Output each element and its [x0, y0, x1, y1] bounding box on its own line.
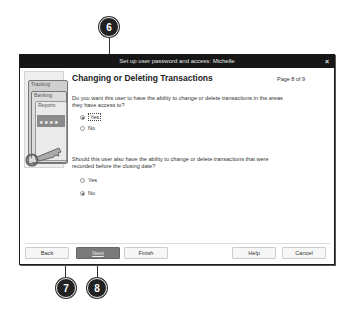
radio-unselected-icon[interactable]	[80, 126, 85, 131]
next-button[interactable]: Next	[76, 247, 120, 259]
radio-selected-icon[interactable]	[80, 115, 85, 120]
button-divider	[24, 243, 330, 244]
dialog-title: Set up user password and access: Michell…	[119, 58, 234, 64]
finish-button[interactable]: Finish	[124, 247, 168, 259]
q1-no-label: No	[88, 125, 95, 131]
question-2: Should this user also have the ability t…	[72, 156, 292, 170]
callout-7: 7	[56, 278, 76, 298]
page-heading: Changing or Deleting Transactions	[72, 73, 213, 83]
cancel-label: Cancel	[295, 250, 312, 256]
q2-option-yes[interactable]: Yes	[80, 177, 97, 183]
finish-label: Finish	[139, 250, 154, 256]
back-button[interactable]: Back	[25, 247, 69, 259]
q1-option-no[interactable]: No	[80, 125, 95, 131]
help-label: Help	[248, 250, 260, 256]
callout-6: 6	[99, 17, 119, 37]
stars-icon: ★★★★	[37, 115, 65, 127]
close-icon[interactable]: ×	[325, 55, 329, 68]
q1-yes-label: Yes	[88, 113, 101, 121]
user-access-dialog: Set up user password and access: Michell…	[19, 54, 335, 265]
help-button[interactable]: Help	[232, 247, 276, 259]
q2-no-label: No	[88, 190, 95, 196]
next-label: Next	[92, 250, 104, 256]
question-1: Do you want this user to have the abilit…	[72, 95, 292, 109]
callout-8: 8	[87, 278, 107, 298]
q1-option-yes[interactable]: Yes	[80, 113, 101, 121]
radio-unselected-icon[interactable]	[80, 178, 85, 183]
back-label: Back	[41, 250, 53, 256]
dialog-titlebar: Set up user password and access: Michell…	[20, 55, 334, 68]
q2-option-no[interactable]: No	[80, 190, 95, 196]
key-icon	[25, 144, 65, 168]
q2-yes-label: Yes	[88, 177, 97, 183]
page-indicator: Page 8 of 9	[277, 76, 305, 82]
side-illustration: Tracking Banking Reports ★★★★	[24, 71, 64, 168]
radio-selected-icon[interactable]	[80, 191, 85, 196]
cancel-button[interactable]: Cancel	[282, 247, 326, 259]
